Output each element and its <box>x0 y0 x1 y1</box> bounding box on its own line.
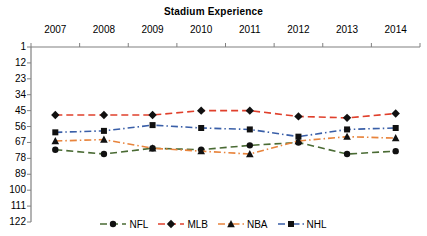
legend-label: NHL <box>307 219 327 230</box>
data-point-marker <box>344 151 350 157</box>
legend-swatch-nhl <box>278 218 304 230</box>
legend-item-nhl[interactable]: NHL <box>278 218 327 230</box>
data-point-marker <box>167 220 175 228</box>
chart-legend: NFLMLBNBANHL <box>0 218 427 230</box>
legend-item-nfl[interactable]: NFL <box>100 218 148 230</box>
chart-container: Stadium Experience 200720082009201020112… <box>0 0 427 236</box>
data-point-marker <box>294 112 302 120</box>
data-point-marker <box>247 126 253 132</box>
data-point-marker <box>101 128 107 134</box>
data-point-marker <box>247 142 253 148</box>
plot-area <box>0 0 427 236</box>
data-point-marker <box>288 221 294 227</box>
legend-item-mlb[interactable]: MLB <box>158 218 208 230</box>
data-point-marker <box>392 134 400 141</box>
data-point-marker <box>110 221 116 227</box>
data-point-marker <box>391 109 399 117</box>
legend-swatch-nfl <box>100 218 126 230</box>
legend-swatch-mlb <box>158 218 184 230</box>
series-mlb <box>51 106 400 122</box>
data-point-marker <box>100 111 108 119</box>
legend-label: MLB <box>187 219 208 230</box>
data-point-marker <box>150 122 156 128</box>
data-point-marker <box>198 125 204 131</box>
legend-label: NBA <box>247 219 268 230</box>
data-point-marker <box>52 129 58 135</box>
legend-swatch-nba <box>218 218 244 230</box>
legend-item-nba[interactable]: NBA <box>218 218 268 230</box>
data-point-marker <box>51 111 59 119</box>
data-point-marker <box>295 134 301 140</box>
data-point-marker <box>392 148 398 154</box>
data-point-marker <box>393 125 399 131</box>
data-point-marker <box>344 126 350 132</box>
data-point-marker <box>101 151 107 157</box>
data-point-marker <box>52 146 58 152</box>
data-point-marker <box>246 106 254 114</box>
data-point-marker <box>197 106 205 114</box>
data-point-marker <box>343 114 351 122</box>
data-point-marker <box>148 111 156 119</box>
legend-label: NFL <box>129 219 148 230</box>
